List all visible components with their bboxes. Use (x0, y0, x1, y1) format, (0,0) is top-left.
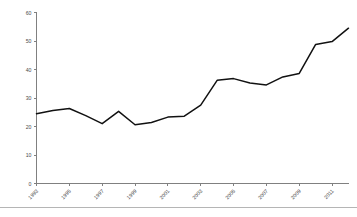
y-tick-label: 50 (26, 38, 32, 44)
x-tick-label: 2011 (323, 188, 335, 200)
y-tick-label: 0 (29, 181, 32, 187)
x-tick-label: 1995 (60, 188, 72, 200)
x-tick-label: 1997 (92, 188, 104, 200)
x-tick-label: 2007 (257, 188, 269, 200)
y-tick-label: 40 (26, 67, 32, 73)
data-series-line (37, 28, 349, 125)
x-tick-label: 2005 (224, 188, 236, 200)
y-axis-ticks: 0102030405060 (26, 10, 37, 187)
plot-area: 0102030405060 19931995199719992001200320… (26, 10, 349, 201)
x-tick-label: 1999 (125, 188, 137, 200)
x-tick-label: 2009 (290, 188, 302, 200)
line-chart: 0102030405060 19931995199719992001200320… (0, 0, 357, 217)
y-tick-label: 20 (26, 124, 32, 130)
x-tick-label: 1993 (27, 188, 39, 200)
x-tick-label: 2001 (158, 188, 170, 200)
y-tick-label: 30 (26, 95, 32, 101)
x-axis-ticks: 1993199519971999200120032005200720092011 (27, 184, 335, 201)
chart-container: 0102030405060 19931995199719992001200320… (0, 0, 357, 217)
x-tick-label: 2003 (191, 188, 203, 200)
y-tick-label: 10 (26, 152, 32, 158)
y-tick-label: 60 (26, 10, 32, 16)
